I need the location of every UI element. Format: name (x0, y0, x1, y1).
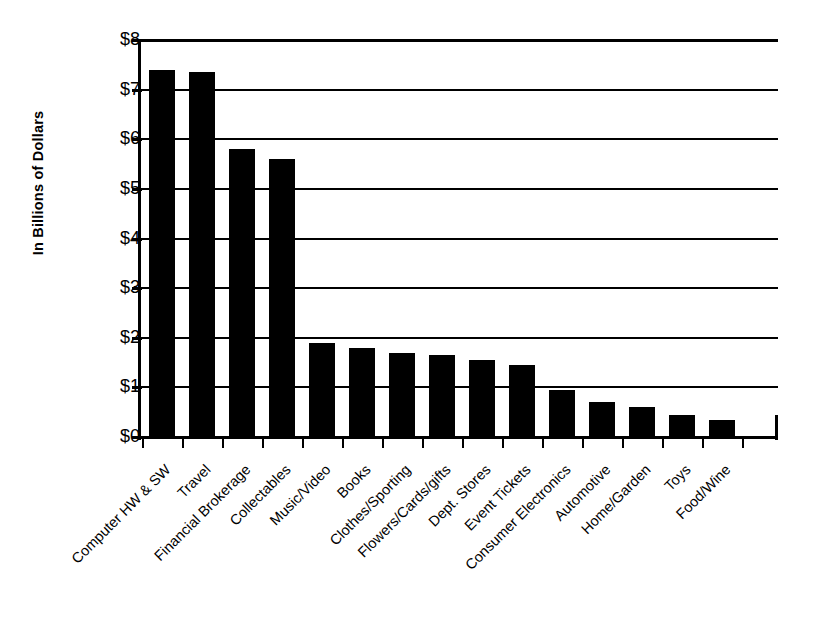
x-tick-mark (222, 437, 224, 448)
x-tick-mark (542, 437, 544, 448)
x-tick-mark (502, 437, 504, 448)
gridline-7 (140, 89, 778, 91)
bar[interactable] (149, 70, 175, 437)
bar-chart: In Billions of Dollars $8$7$6$5$4$3$2$1$… (0, 0, 819, 623)
bar[interactable] (269, 159, 295, 437)
x-tick-mark (462, 437, 464, 448)
gridline-8 (140, 39, 778, 42)
bar[interactable] (509, 365, 535, 437)
bar[interactable] (469, 360, 495, 437)
bar[interactable] (589, 402, 615, 437)
bar[interactable] (709, 420, 735, 437)
y-axis-title: In Billions of Dollars (30, 83, 46, 283)
x-tick-mark (622, 437, 624, 448)
x-tick-mark (662, 437, 664, 448)
x-tick-mark (582, 437, 584, 448)
bar[interactable] (549, 390, 575, 437)
x-tick-mark (262, 437, 264, 448)
x-tick-mark (742, 437, 744, 448)
x-tick-mark (702, 437, 704, 448)
bar[interactable] (389, 353, 415, 437)
x-tick-mark (302, 437, 304, 448)
x-tick-mark (342, 437, 344, 448)
bar[interactable] (309, 343, 335, 437)
y-axis-ticks: $8$7$6$5$4$3$2$1$0 (86, 40, 140, 440)
x-tick-mark (142, 437, 144, 448)
bar[interactable] (669, 415, 695, 437)
bar[interactable] (349, 348, 375, 437)
x-axis-ticks (140, 437, 778, 449)
bar[interactable] (629, 407, 655, 437)
x-tick-mark (422, 437, 424, 448)
bar[interactable] (229, 149, 255, 437)
bar[interactable] (189, 72, 215, 437)
x-tick-mark (182, 437, 184, 448)
x-tick-mark (382, 437, 384, 448)
bar[interactable] (429, 355, 455, 437)
gridline-6 (140, 138, 778, 140)
plot-area (140, 40, 778, 437)
